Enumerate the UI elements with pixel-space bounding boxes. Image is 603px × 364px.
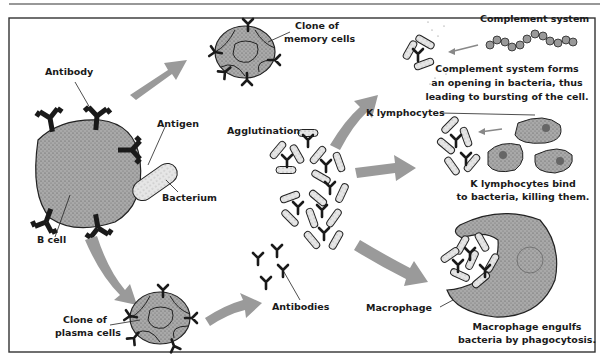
- label-antibodies: Antibodies: [272, 301, 330, 312]
- k-lymphocytes: [488, 118, 572, 173]
- label-clone-memory-1: Clone of: [295, 20, 340, 31]
- label-macrophage: Macrophage: [366, 302, 432, 313]
- label-k-lymphocytes: K lymphocytes: [366, 107, 445, 118]
- free-antibodies: [253, 245, 288, 289]
- bound-bacteria: [436, 115, 481, 176]
- caption-complement-3: leading to bursting of the cell.: [425, 91, 588, 102]
- label-clone-plasma-1: Clone of: [63, 314, 108, 325]
- immune-response-diagram: Antibody Antigen Bacterium B cell Clone …: [0, 0, 603, 364]
- b-cell: [31, 107, 141, 238]
- label-complement-system: Complement system: [480, 13, 589, 24]
- lysed-bacteria: [402, 21, 447, 84]
- caption-macrophage-1: Macrophage engulfs: [472, 321, 581, 332]
- label-clone-memory-2: memory cells: [284, 33, 356, 44]
- caption-macrophage-2: bacteria by phagocytosis.: [458, 334, 596, 345]
- memory-cell-clone: [209, 19, 280, 85]
- macrophage: [440, 214, 557, 317]
- plasma-cell-clone: [124, 285, 197, 352]
- caption-k-lymph-1: K lymphocytes bind: [470, 178, 576, 189]
- label-antigen: Antigen: [157, 118, 199, 129]
- label-b-cell: B cell: [37, 234, 66, 245]
- complement-system: [486, 30, 577, 51]
- caption-complement-1: Complement system forms: [435, 63, 579, 74]
- caption-k-lymph-2: to bacteria, killing them.: [457, 191, 590, 202]
- label-bacterium: Bacterium: [162, 192, 217, 203]
- label-clone-plasma-2: plasma cells: [55, 327, 121, 338]
- caption-complement-2: an opening in bacteria, thus: [431, 77, 583, 88]
- label-antibody: Antibody: [45, 66, 94, 77]
- label-agglutination: Agglutination: [227, 125, 300, 136]
